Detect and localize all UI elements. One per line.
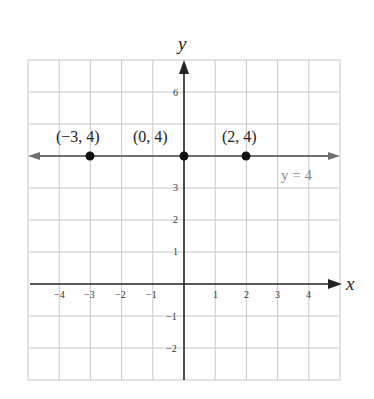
x-axis-label: x <box>345 273 355 294</box>
x-tick: −4 <box>54 289 65 300</box>
line-equation-label: y = 4 <box>281 167 312 183</box>
y-axis-label: y <box>176 33 187 54</box>
y-tick: −1 <box>166 311 177 322</box>
y-tick: 1 <box>173 246 178 257</box>
y-tick: 2 <box>173 214 178 225</box>
x-axis <box>30 279 342 289</box>
x-tick: 1 <box>213 289 218 300</box>
y-tick: 6 <box>173 87 178 98</box>
x-tick: −1 <box>146 289 157 300</box>
point-2-4 <box>242 152 251 161</box>
x-tick-labels: −4 −3 −2 −1 1 2 3 4 <box>54 289 311 300</box>
y-tick: −2 <box>166 343 177 354</box>
point-label: (−3, 4) <box>56 128 100 146</box>
y-tick: 3 <box>173 182 178 193</box>
point-0-4 <box>180 152 189 161</box>
x-tick: 4 <box>306 289 311 300</box>
y-axis-arrow-icon <box>179 60 189 74</box>
coordinate-plane: x y −4 −3 −2 −1 1 2 3 4 6 3 2 1 −1 −2 (−… <box>0 0 374 399</box>
line-right-arrow-icon <box>328 152 340 160</box>
point-label: (0, 4) <box>133 128 168 146</box>
point-neg3-4 <box>86 152 95 161</box>
x-tick: −3 <box>84 289 95 300</box>
x-tick: −2 <box>115 289 126 300</box>
x-tick: 2 <box>244 289 249 300</box>
x-tick: 3 <box>275 289 280 300</box>
line-left-arrow-icon <box>28 152 40 160</box>
point-label: (2, 4) <box>222 128 257 146</box>
